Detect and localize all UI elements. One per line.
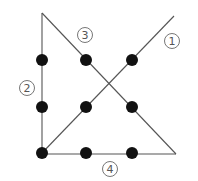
svg-text:4: 4 <box>107 163 114 176</box>
svg-text:3: 3 <box>82 29 89 42</box>
svg-text:1: 1 <box>169 35 176 48</box>
dot-r1c1 <box>36 54 48 66</box>
label-2: 2 <box>20 81 35 96</box>
dot-r3c2 <box>80 147 92 159</box>
dot-r2c1 <box>36 101 48 113</box>
segments <box>42 13 176 154</box>
dot-r1c3 <box>126 54 138 66</box>
dot-r3c3 <box>126 147 138 159</box>
nine-dots-diagram: 1 2 3 4 <box>0 0 198 181</box>
dot-r1c2 <box>80 54 92 66</box>
label-1: 1 <box>165 34 180 49</box>
line-1 <box>42 16 174 153</box>
label-3: 3 <box>78 28 93 43</box>
dot-r2c2 <box>80 101 92 113</box>
svg-text:2: 2 <box>24 82 31 95</box>
dot-r3c1 <box>36 147 48 159</box>
label-4: 4 <box>103 162 118 177</box>
dot-r2c3 <box>126 101 138 113</box>
